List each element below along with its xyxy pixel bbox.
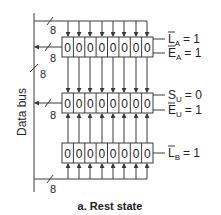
svg-text:LB= 1: LB= 1 — [168, 146, 200, 162]
a-to-u-arrows — [68, 57, 147, 92]
register-u-enable-signal: EU= 1 — [168, 103, 202, 119]
register-a-bit: 0 — [64, 41, 71, 55]
figure-caption: a. Rest state — [78, 200, 143, 212]
svg-text:EU= 1: EU= 1 — [168, 103, 202, 119]
register-a-bit: 0 — [133, 41, 140, 55]
register-a-enable-signal: EA= 1 — [168, 46, 202, 62]
register-a-bit: 0 — [121, 41, 128, 55]
register-b-bit: 0 — [76, 147, 83, 161]
register-a-bit: 0 — [76, 41, 83, 55]
b-to-u-arrows — [68, 114, 147, 143]
svg-text:EA= 1: EA= 1 — [168, 46, 202, 62]
register-b-bit: 0 — [121, 147, 128, 161]
register-a: 0 0 0 0 0 0 0 0 — [62, 37, 153, 57]
register-u-bit: 0 — [133, 97, 140, 111]
register-b-input-width: 8 — [50, 183, 56, 195]
register-b-input-arrows — [68, 164, 147, 179]
register-b: 0 0 0 0 0 0 0 0 — [62, 143, 153, 163]
register-b-load-signal: LB= 1 — [168, 146, 200, 162]
register-a-bit: 0 — [98, 41, 105, 55]
register-u-bit: 0 — [110, 97, 117, 111]
register-a-bit: 0 — [144, 41, 151, 55]
register-u-output-width: 8 — [50, 109, 56, 121]
register-bus-diagram: 8 Data bus 8 8 0 0 0 0 0 0 0 0 — [0, 0, 221, 215]
register-b-bit: 0 — [144, 147, 151, 161]
register-u: 0 0 0 0 0 0 0 0 — [62, 93, 153, 113]
register-b-bit: 0 — [133, 147, 140, 161]
register-u-bit: 0 — [144, 97, 151, 111]
register-u-subtract-signal: SU= 0 — [168, 88, 202, 104]
register-u-bit: 0 — [121, 97, 128, 111]
register-u-bit: 0 — [76, 97, 83, 111]
register-b-bit: 0 — [110, 147, 117, 161]
register-a-output-width: 8 — [50, 52, 56, 64]
register-u-bit: 0 — [87, 97, 94, 111]
register-u-bit: 0 — [64, 97, 71, 111]
register-a-bit: 0 — [110, 41, 117, 55]
svg-text:SU= 0: SU= 0 — [168, 88, 202, 104]
register-a-input-arrows — [68, 21, 147, 36]
register-b-bit: 0 — [64, 147, 71, 161]
register-a-input-width: 8 — [50, 24, 56, 36]
register-b-bit: 0 — [98, 147, 105, 161]
data-bus-label: Data bus — [15, 88, 29, 136]
register-a-bit: 0 — [87, 41, 94, 55]
register-b-bit: 0 — [87, 147, 94, 161]
register-u-bit: 0 — [98, 97, 105, 111]
bus-width-label: 8 — [40, 68, 46, 80]
